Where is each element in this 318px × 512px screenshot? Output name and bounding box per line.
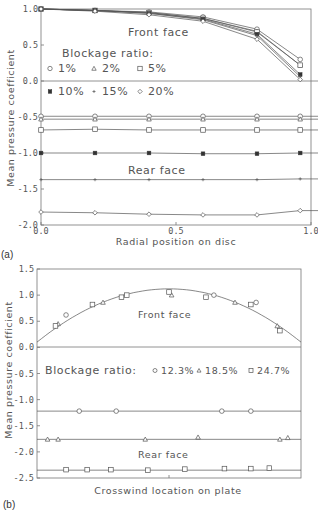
y-tick-label: -0.5 xyxy=(18,112,38,122)
square-marker xyxy=(298,63,303,68)
square-marker xyxy=(255,128,260,133)
panel-label-b: (b) xyxy=(3,499,15,510)
front-face-label-b: Front face xyxy=(138,309,191,320)
circle-marker xyxy=(64,313,69,318)
plus-marker xyxy=(93,178,96,181)
y-tick-label: -1.0 xyxy=(18,148,38,158)
y-tick-label: 0.0 xyxy=(19,342,34,352)
square-marker xyxy=(93,127,98,132)
rear-face-label-b: Rear face xyxy=(138,449,188,460)
square-marker xyxy=(201,128,206,133)
triangle-marker xyxy=(233,300,238,304)
filled-square-marker xyxy=(201,152,205,156)
y-tick-label: 1.0 xyxy=(23,4,38,14)
square-marker xyxy=(119,295,124,300)
circle-marker xyxy=(298,57,303,62)
square-marker xyxy=(204,295,209,300)
legend-item: 20% xyxy=(138,85,174,98)
triangle-marker xyxy=(196,435,201,439)
circle-marker xyxy=(48,66,52,70)
filled-square-marker xyxy=(255,152,259,156)
front-face-label-a: Front face xyxy=(128,26,189,39)
plus-marker xyxy=(39,178,42,181)
legend-item: 2% xyxy=(92,62,121,75)
diamond-marker xyxy=(93,210,98,215)
square-marker xyxy=(53,324,58,329)
figure: 1.00.50.0-0.5-1.0-1.5-2.0 0.00.51.0 Fron… xyxy=(0,0,318,512)
filled-square-marker xyxy=(298,151,302,155)
square-marker xyxy=(147,128,152,133)
y-tick-label: -1.0 xyxy=(14,395,34,405)
legend-title-b: Blockage ratio: xyxy=(45,364,137,377)
y-tick-label: 1.5 xyxy=(19,264,34,274)
y-axis-label-b: Mean pressure coefficient xyxy=(3,301,14,439)
series-1-rear xyxy=(39,114,318,119)
square-marker xyxy=(249,369,253,373)
legend-item: 24.7% xyxy=(249,365,290,376)
y-tick-label: 0.0 xyxy=(23,76,38,86)
series-12-3-rear xyxy=(37,409,301,414)
chart-b: 1.51.00.50.0-0.5-1.0-1.5-2.0-2.5 Front f… xyxy=(3,264,301,510)
plus-marker xyxy=(299,177,302,180)
diamond-marker xyxy=(138,89,142,93)
plus-marker xyxy=(255,178,258,181)
triangle-marker xyxy=(286,435,291,439)
square-marker xyxy=(146,468,151,473)
filled-square-marker xyxy=(48,90,52,94)
y-tick-label: -1.5 xyxy=(14,421,34,431)
series-5-rear xyxy=(39,127,318,132)
legend-item: 15% xyxy=(92,85,128,98)
y-tick-label: 1.0 xyxy=(19,290,34,300)
y-tick-label: -0.5 xyxy=(14,369,34,379)
square-marker xyxy=(183,467,188,472)
diamond-marker xyxy=(147,212,152,217)
circle-marker xyxy=(254,300,259,305)
legend-label: 5% xyxy=(148,62,167,75)
legend-title-a: Blockage ratio: xyxy=(62,47,154,60)
legend-item: 10% xyxy=(48,85,84,98)
filled-square-marker xyxy=(147,151,151,155)
rear-face-label-a: Rear face xyxy=(128,164,186,177)
y-tick-label: -2.0 xyxy=(14,447,34,457)
y-tick-label: -2.5 xyxy=(14,473,34,483)
square-marker xyxy=(222,466,227,471)
legend-item: 18.5% xyxy=(197,365,238,376)
square-marker xyxy=(64,467,69,472)
y-ticks-b: 1.51.00.50.0-0.5-1.0-1.5-2.0-2.5 xyxy=(14,264,40,483)
legend-a: 1%2%5%10%15%20% xyxy=(48,62,174,98)
plot-frame-a xyxy=(41,9,311,225)
triangle-marker xyxy=(197,369,201,373)
diamond-marker xyxy=(255,213,260,218)
legend-item: 1% xyxy=(48,62,77,75)
legend-label: 18.5% xyxy=(205,365,238,376)
x-axis-label-b: Crosswind location on plate xyxy=(94,485,241,496)
square-marker xyxy=(298,128,303,133)
square-marker xyxy=(249,466,254,471)
square-marker xyxy=(39,128,44,133)
series-2-rear xyxy=(39,117,318,121)
circle-marker xyxy=(77,409,82,414)
series-15-front xyxy=(39,7,301,78)
series-24-7-rear xyxy=(37,466,301,473)
square-marker xyxy=(249,302,254,307)
x-tick-label: 0.5 xyxy=(168,226,183,236)
legend-item: 5% xyxy=(138,62,167,75)
x-tick-label: 1.0 xyxy=(303,226,318,236)
panel-label-a: (a) xyxy=(1,249,13,260)
legend-label: 1% xyxy=(58,62,77,75)
square-marker xyxy=(267,466,272,471)
series-10-rear xyxy=(39,151,318,155)
circle-marker xyxy=(212,293,217,298)
y-tick-label: 0.5 xyxy=(19,316,34,326)
diamond-marker xyxy=(298,208,303,213)
legend-label: 24.7% xyxy=(257,365,290,376)
y-axis-label-a: Mean pressure coefficient xyxy=(5,49,16,187)
legend-b: 12.3%18.5%24.7% xyxy=(153,365,290,376)
square-marker xyxy=(90,302,95,307)
square-marker xyxy=(85,467,90,472)
chart-a: 1.00.50.0-0.5-1.0-1.5-2.0 0.00.51.0 Fron… xyxy=(1,4,318,260)
square-marker xyxy=(167,290,172,295)
series-15-rear xyxy=(39,177,318,181)
filled-square-marker xyxy=(39,151,43,155)
x-tick-label: 0.0 xyxy=(33,226,48,236)
